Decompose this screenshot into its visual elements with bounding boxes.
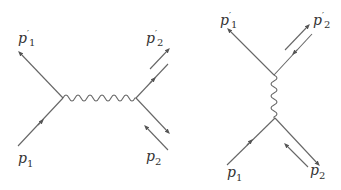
- label-p2-right: p2: [310, 163, 325, 181]
- left-diagram: [18, 50, 168, 150]
- right-diagram: [227, 26, 318, 167]
- p2prime-arrow: [150, 79, 154, 83]
- label-p2-prime-right: p′2: [313, 12, 330, 30]
- p2prime-outgoing-line-right: [274, 34, 312, 75]
- label-p1-prime-right: p′1: [220, 12, 237, 30]
- p2-incoming-line: [136, 98, 168, 132]
- p2-momentum-arrow: [146, 127, 168, 150]
- p2-momentum-arrow-right: [286, 145, 308, 167]
- feynman-diagrams: [0, 0, 341, 190]
- p1prime-outgoing-line: [20, 53, 63, 98]
- label-p2-left: p2: [146, 149, 161, 167]
- label-p1-right: p1: [227, 165, 242, 183]
- photon-propagator-vertical: [271, 75, 277, 118]
- p1-arrow-right: [247, 141, 251, 145]
- p2-line-right: [275, 118, 318, 164]
- label-p1-left: p1: [18, 151, 33, 169]
- photon-propagator: [63, 95, 136, 101]
- label-p2-prime-left: p′2: [146, 30, 163, 48]
- label-p1-prime-left: p′1: [18, 30, 35, 48]
- p1-arrow: [38, 121, 42, 125]
- p2prime-momentum-arrow-right: [285, 26, 308, 50]
- p1prime-outgoing-line-right: [229, 30, 274, 75]
